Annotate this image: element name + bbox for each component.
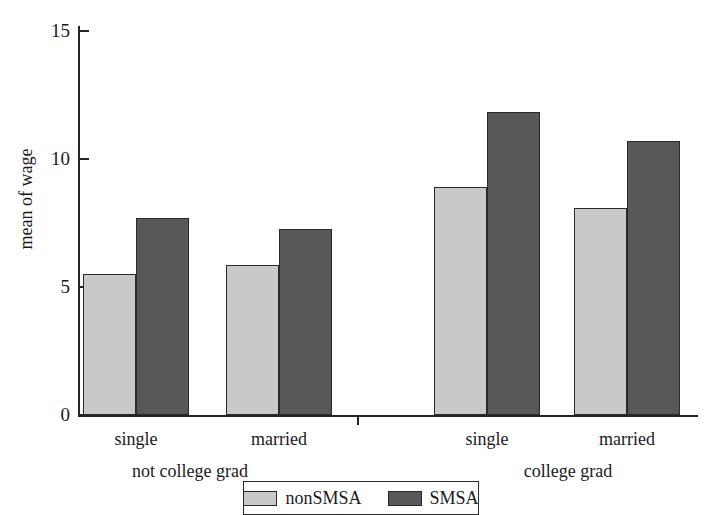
bar-college-grad-married-smsa (627, 141, 680, 415)
y-axis-line (78, 26, 80, 417)
bar-not-college-grad-married-nonsmsa (226, 265, 279, 415)
y-tick-15 (80, 30, 89, 32)
legend-swatch-smsa (388, 491, 422, 506)
group-label-not-college-grad: not college grad (80, 462, 300, 480)
y-tick-label-0: 0 (20, 405, 70, 424)
category-label-3-married: married (557, 430, 697, 448)
bar-not-college-grad-single-smsa (136, 218, 189, 415)
legend-label-nonsmsa: nonSMSA (285, 489, 361, 507)
y-tick-10 (80, 158, 89, 160)
legend-swatch-nonsmsa (243, 491, 277, 506)
legend-label-smsa: SMSA (430, 489, 479, 507)
y-tick-label-5: 5 (20, 277, 70, 296)
y-tick-label-10: 10 (20, 149, 70, 168)
y-tick-label-15: 15 (20, 21, 70, 40)
bar-not-college-grad-single-nonsmsa (83, 274, 136, 415)
category-label-1-married: married (209, 430, 349, 448)
legend-entry-nonsmsa: nonSMSA (243, 489, 361, 507)
legend-entry-smsa: SMSA (388, 489, 479, 507)
x-tick-0 (357, 417, 359, 425)
legend: nonSMSA SMSA (243, 481, 479, 515)
bar-college-grad-married-nonsmsa (574, 208, 627, 415)
group-label-college-grad: college grad (458, 462, 678, 480)
bar-college-grad-single-nonsmsa (434, 187, 487, 415)
bar-college-grad-single-smsa (487, 112, 540, 415)
category-label-0-single: single (66, 430, 206, 448)
bar-not-college-grad-married-smsa (279, 229, 332, 415)
category-label-2-single: single (417, 430, 557, 448)
x-axis-line (78, 415, 698, 417)
